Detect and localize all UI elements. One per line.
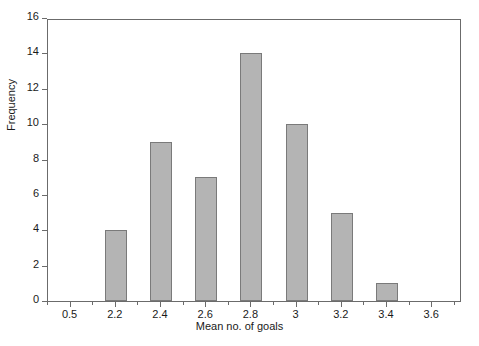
- x-minor-tick-mark: [92, 302, 93, 305]
- x-tick-label: 3.4: [378, 308, 393, 320]
- x-tick-label: 0.5: [62, 308, 77, 320]
- y-tick-label: 12: [27, 82, 39, 93]
- histogram-bar: [240, 53, 262, 301]
- histogram-figure: Frequency 0246810121416 0.52.22.42.62.83…: [0, 0, 479, 346]
- histogram-bar: [331, 213, 353, 301]
- x-tick-mark: [115, 302, 116, 307]
- x-tick-label: 2.2: [107, 308, 122, 320]
- x-tick-mark: [296, 302, 297, 307]
- x-tick-label: 3.6: [424, 308, 439, 320]
- plot-area: [48, 20, 460, 301]
- x-minor-tick-mark: [363, 302, 364, 305]
- x-tick-mark: [205, 302, 206, 307]
- x-minor-tick-mark: [409, 302, 410, 305]
- y-tick-label: 14: [27, 46, 39, 57]
- x-minor-tick-mark: [183, 302, 184, 305]
- plot-frame: [47, 19, 461, 302]
- y-tick-label: 16: [27, 11, 39, 22]
- x-tick-label: 2.6: [198, 308, 213, 320]
- histogram-bar: [105, 230, 127, 301]
- y-tick-label: 2: [33, 259, 39, 270]
- histogram-bar: [376, 283, 398, 301]
- x-tick-mark: [431, 302, 432, 307]
- histogram-bar: [286, 124, 308, 301]
- x-minor-tick-mark: [137, 302, 138, 305]
- x-minor-tick-mark: [318, 302, 319, 305]
- x-minor-tick-mark: [228, 302, 229, 305]
- x-axis-title: Mean no. of goals: [0, 320, 479, 333]
- x-tick-mark: [386, 302, 387, 307]
- y-tick-label: 8: [33, 153, 39, 164]
- y-tick-label: 4: [33, 223, 39, 234]
- x-tick-label: 3.2: [333, 308, 348, 320]
- x-axis: 0.52.22.42.62.833.23.43.6: [47, 302, 461, 322]
- y-axis: 0246810121416: [0, 19, 47, 302]
- x-tick-mark: [250, 302, 251, 307]
- x-minor-tick-mark: [454, 302, 455, 305]
- histogram-bar: [150, 142, 172, 301]
- x-tick-mark: [70, 302, 71, 307]
- y-tick-label: 6: [33, 188, 39, 199]
- x-tick-mark: [160, 302, 161, 307]
- histogram-bar: [195, 177, 217, 301]
- x-tick-label: 2.4: [152, 308, 167, 320]
- x-tick-mark: [341, 302, 342, 307]
- y-tick-label: 0: [33, 294, 39, 305]
- x-minor-tick-mark: [47, 302, 48, 305]
- x-tick-label: 3: [293, 308, 299, 320]
- y-tick-label: 10: [27, 117, 39, 128]
- x-minor-tick-mark: [273, 302, 274, 305]
- x-tick-label: 2.8: [243, 308, 258, 320]
